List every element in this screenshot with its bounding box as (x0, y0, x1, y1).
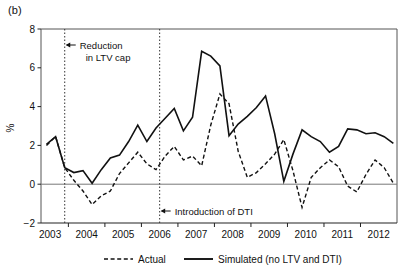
legend-label-simulated: Simulated (no LTV and DTI) (218, 254, 342, 265)
line-chart: −202468 20032004200520062007200820092010… (0, 0, 407, 272)
series-line-actual (46, 94, 393, 207)
annotation-label-ltv-cap-line2: in LTV cap (86, 52, 131, 63)
chart-canvas: −202468 20032004200520062007200820092010… (0, 0, 407, 272)
annotation-arrow-dti (161, 208, 171, 213)
x-tick-label: 2007 (185, 229, 208, 240)
y-tick-label: 2 (29, 140, 35, 151)
y-axis-ticks: −202468 (24, 24, 41, 229)
x-axis-ticks: 2003200420052006200720082009201020112012 (39, 223, 390, 240)
x-tick-label: 2008 (222, 229, 245, 240)
x-tick-label: 2010 (295, 229, 318, 240)
y-axis-title-text: % (5, 123, 16, 132)
y-tick-label: 4 (29, 101, 35, 112)
y-tick-label: 8 (29, 24, 35, 35)
x-tick-label: 2004 (76, 229, 99, 240)
annotation-arrow-ltv-cap (66, 42, 76, 47)
series-line-simulated (46, 51, 393, 183)
figure-panel-b: (b) −202468 2003200420052006200720082009… (0, 0, 407, 272)
annotation-label-dti: Introduction of DTI (175, 206, 253, 217)
y-axis-title: % (5, 123, 16, 132)
x-tick-label: 2006 (149, 229, 172, 240)
x-tick-label: 2011 (331, 229, 353, 240)
x-tick-label: 2005 (112, 229, 135, 240)
annotation-label-ltv-cap-line1: Reduction (80, 40, 123, 51)
y-tick-label: 6 (29, 62, 35, 73)
y-tick-label: 0 (29, 179, 35, 190)
y-tick-label: −2 (24, 218, 36, 229)
x-tick-label: 2012 (368, 229, 391, 240)
x-tick-label: 2009 (258, 229, 281, 240)
chart-legend: ActualSimulated (no LTV and DTI) (104, 254, 342, 265)
legend-label-actual: Actual (138, 254, 166, 265)
x-tick-label: 2003 (39, 229, 62, 240)
